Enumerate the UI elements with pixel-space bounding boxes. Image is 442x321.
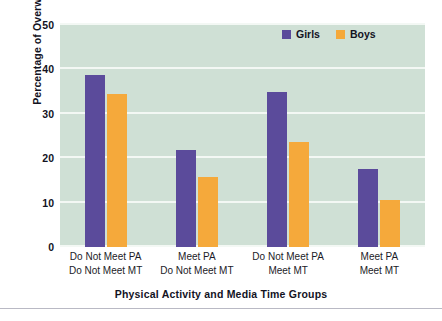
y-axis-tick-label: 20	[24, 152, 54, 164]
y-axis-tick-label: 10	[24, 197, 54, 209]
bar-boys-group-2	[198, 177, 218, 247]
bar-girls-group-4	[358, 169, 378, 247]
legend-label: Girls	[296, 28, 320, 40]
y-axis-tick-label: 0	[24, 241, 54, 253]
bar-girls-group-2	[176, 150, 196, 247]
x-axis-title: Physical Activity and Media Time Groups	[0, 288, 442, 300]
x-axis-category-line: Do Not Meet MT	[60, 264, 151, 278]
legend-entry-girls: Girls	[282, 28, 320, 40]
legend-label: Boys	[350, 28, 376, 40]
x-axis-category-line: Meet PA	[178, 251, 216, 262]
x-axis-category-line: Meet PA	[361, 251, 399, 262]
y-axis-tick-label: 30	[24, 108, 54, 120]
gridline	[60, 67, 425, 69]
x-axis-category-labels: Do Not Meet PADo Not Meet MTMeet PADo No…	[60, 250, 425, 282]
bar-boys-group-1	[107, 94, 127, 247]
x-axis-category-line: Meet MT	[334, 264, 425, 278]
y-axis-tick-labels: 01020304050	[22, 25, 54, 247]
x-axis-category-line: Do Not Meet MT	[151, 264, 242, 278]
square-swatch-icon	[336, 30, 345, 39]
x-axis-category-line: Meet MT	[243, 264, 334, 278]
x-axis-category-label-1: Do Not Meet PADo Not Meet MT	[60, 250, 151, 278]
y-axis-tick-label: 40	[24, 63, 54, 75]
bar-chart-figure: Percentage of Overweight (%) 01020304050…	[0, 0, 442, 321]
page-bottom-rule	[0, 308, 442, 309]
x-axis-category-line: Do Not Meet PA	[252, 251, 324, 262]
x-axis-category-label-4: Meet PAMeet MT	[334, 250, 425, 278]
gridline	[60, 23, 425, 25]
x-axis-category-label-2: Meet PADo Not Meet MT	[151, 250, 242, 278]
bar-boys-group-4	[380, 200, 400, 248]
bar-girls-group-1	[85, 75, 105, 247]
x-axis-category-line: Do Not Meet PA	[70, 251, 142, 262]
bar-boys-group-3	[289, 142, 309, 247]
legend: GirlsBoys	[282, 28, 376, 40]
square-swatch-icon	[282, 30, 291, 39]
x-axis-category-label-3: Do Not Meet PAMeet MT	[243, 250, 334, 278]
plot-area	[60, 25, 425, 247]
legend-entry-boys: Boys	[336, 28, 376, 40]
bar-girls-group-3	[267, 92, 287, 247]
y-axis-tick-label: 50	[24, 19, 54, 31]
